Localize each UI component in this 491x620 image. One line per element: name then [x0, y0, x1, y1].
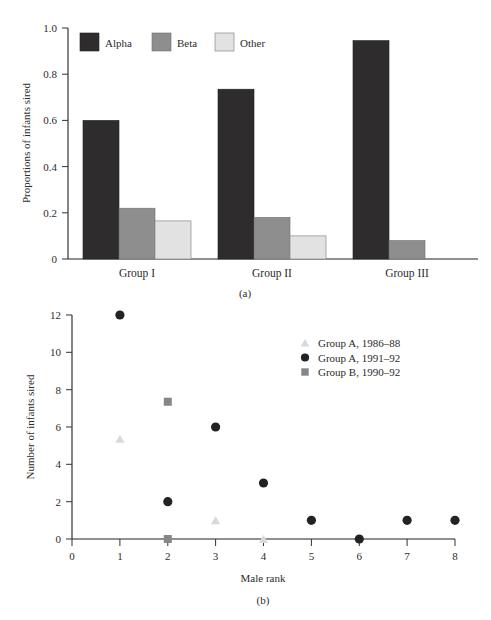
legend-square-marker-icon	[301, 368, 308, 375]
legend-triangle-marker-icon	[301, 339, 310, 347]
data-point-sq-r1-v7	[164, 398, 172, 406]
scatter-chart-svg: 12 10 8 6 4 2 0 Number of infants sired …	[0, 305, 491, 620]
data-point-circ-r4-v3	[259, 478, 268, 487]
legend-circle-marker-icon	[301, 353, 309, 361]
legend-label-group-a-1986-88: Group A, 1986–88	[318, 337, 401, 349]
panel-a-caption: (a)	[239, 287, 252, 300]
scatter-x-axis-title: Male rank	[241, 572, 286, 584]
bar-y-tick-6: 0	[52, 253, 58, 265]
bar-group-iii-beta	[389, 241, 425, 260]
bar-chart-y-ticks	[62, 28, 68, 259]
legend-swatch-beta	[152, 33, 171, 51]
scatter-series-group-a-1986-88	[115, 397, 268, 543]
panel-b-scatter-plot: 12 10 8 6 4 2 0 Number of infants sired …	[0, 305, 491, 620]
scatter-x-tick-5: 5	[309, 550, 315, 562]
data-point-circ-r7-v1	[403, 516, 412, 525]
scatter-series-group-b-1990-92	[164, 398, 172, 543]
legend-swatch-other	[215, 33, 234, 51]
scatter-y-ticks	[66, 315, 72, 539]
bar-group-iii-alpha	[353, 41, 389, 259]
bar-y-tick-1: 1.0	[43, 22, 57, 34]
scatter-x-tick-8: 8	[452, 550, 458, 562]
scatter-y-tick-0: 0	[56, 533, 62, 545]
bar-chart-y-axis-title: Proportions of infants sired	[20, 82, 32, 203]
bar-group-ii-alpha	[218, 89, 254, 259]
data-point-tri-r1-v5	[115, 435, 124, 443]
data-point-circ-r6-v0	[355, 534, 364, 543]
scatter-y-axis-title: Number of infants sired	[24, 374, 36, 479]
scatter-y-tick-8: 8	[56, 384, 62, 396]
data-point-circ-r2-v2	[163, 497, 172, 506]
scatter-y-tick-4: 4	[56, 458, 62, 470]
scatter-x-tick-0: 0	[69, 550, 75, 562]
scatter-y-tick-2: 2	[56, 496, 62, 508]
bar-y-tick-4: 0.4	[43, 161, 57, 173]
bar-y-tick-5: 0.2	[43, 207, 57, 219]
bar-group-i-other	[155, 221, 191, 259]
bar-group-ii-beta	[254, 217, 290, 259]
legend-swatch-alpha	[80, 33, 99, 51]
scatter-y-tick-6: 6	[56, 421, 62, 433]
bar-category-label-2: Group III	[385, 267, 429, 280]
scatter-y-tick-12: 12	[50, 309, 61, 321]
bar-category-label-1: Group II	[252, 267, 292, 280]
bar-chart-svg: 1.0 0.8 0.6 0.4 0.2 0 Proportions of inf…	[0, 0, 491, 305]
bar-group-i-alpha	[83, 120, 119, 259]
data-point-circ-r1-v12	[115, 310, 124, 319]
bar-y-tick-2: 0.8	[43, 68, 57, 80]
scatter-x-tick-7: 7	[404, 550, 410, 562]
scatter-x-tick-1: 1	[117, 550, 123, 562]
scatter-series-group-a-1991-92	[115, 310, 459, 543]
data-point-tri-r3-v1	[211, 516, 220, 524]
data-point-circ-r3-v6	[211, 422, 220, 431]
legend-label-group-a-1991-92: Group A, 1991–92	[318, 352, 400, 364]
scatter-x-tick-3: 3	[213, 550, 219, 562]
scatter-y-tick-10: 10	[50, 346, 62, 358]
panel-a-bar-chart: 1.0 0.8 0.6 0.4 0.2 0 Proportions of inf…	[0, 0, 491, 305]
legend-label-alpha: Alpha	[105, 37, 132, 49]
bar-chart-legend: Alpha Beta Other	[80, 33, 265, 51]
scatter-x-tick-4: 4	[261, 550, 267, 562]
data-point-sq-r2-v0	[164, 535, 172, 543]
scatter-chart-legend: Group A, 1986–88 Group A, 1991–92 Group …	[301, 337, 401, 378]
legend-label-beta: Beta	[177, 37, 197, 49]
bar-group-ii-other	[290, 236, 326, 259]
bar-y-tick-3: 0.6	[43, 114, 57, 126]
bar-category-label-0: Group I	[119, 267, 155, 280]
panel-b-caption: (b)	[257, 594, 270, 607]
bar-group-i-beta	[119, 208, 155, 259]
scatter-x-tick-2: 2	[165, 550, 171, 562]
figure-container: 1.0 0.8 0.6 0.4 0.2 0 Proportions of inf…	[0, 0, 491, 620]
scatter-x-tick-6: 6	[357, 550, 363, 562]
data-point-circ-r8-v1	[450, 516, 459, 525]
legend-label-other: Other	[240, 37, 265, 49]
legend-label-group-b-1990-92: Group B, 1990–92	[318, 366, 400, 378]
data-point-circ-r5-v1	[307, 516, 316, 525]
